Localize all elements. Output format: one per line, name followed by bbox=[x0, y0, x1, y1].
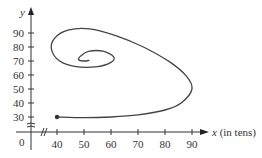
y-axis-label: y bbox=[19, 6, 25, 18]
x-tick-label: 50 bbox=[79, 138, 91, 150]
chart: y x (in tens) 0 30405060708090 405060708… bbox=[0, 0, 262, 158]
y-axis-arrow-icon bbox=[28, 7, 34, 15]
y-tick-label: 80 bbox=[13, 41, 25, 53]
y-tick-label: 70 bbox=[13, 55, 25, 67]
x-tick-label: 70 bbox=[133, 138, 145, 150]
x-tick-label: 40 bbox=[52, 138, 64, 150]
y-tick-label: 30 bbox=[13, 111, 25, 123]
x-tick-label: 80 bbox=[160, 138, 172, 150]
x-axis-label: x (in tens) bbox=[211, 126, 256, 139]
origin-label: 0 bbox=[19, 136, 25, 148]
y-tick-label: 60 bbox=[13, 69, 25, 81]
x-tick-label: 60 bbox=[106, 138, 118, 150]
start-point-marker bbox=[55, 115, 59, 119]
x-tick-label: 90 bbox=[187, 138, 199, 150]
y-tick-label: 50 bbox=[13, 83, 25, 95]
x-axis-arrow-icon bbox=[200, 129, 209, 135]
trajectory-curve bbox=[51, 28, 192, 117]
y-tick-label: 40 bbox=[13, 97, 25, 109]
y-tick-label: 90 bbox=[13, 27, 25, 39]
